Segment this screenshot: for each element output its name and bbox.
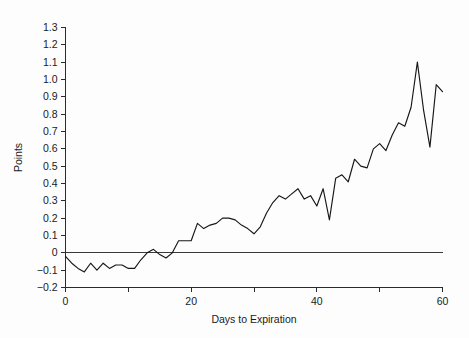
y-axis-tick-label: 0.6 — [43, 142, 58, 154]
y-axis-tick-label: 1.2 — [43, 38, 58, 50]
y-axis-tick-label: 0.2 — [43, 212, 58, 224]
y-axis-tick-label: 1.1 — [43, 56, 58, 68]
x-axis-tick-label: 40 — [311, 295, 323, 307]
y-axis-tick-label: −0.1 — [37, 264, 58, 276]
x-axis-tick-label: 0 — [63, 295, 69, 307]
y-axis-tick-label: 0.5 — [43, 160, 58, 172]
x-axis-title: Days to Expiration — [211, 313, 296, 325]
y-axis-tick-label: 0.7 — [43, 125, 58, 137]
y-axis-tick-label: 0.3 — [43, 194, 58, 206]
x-axis-tick-label: 20 — [185, 295, 197, 307]
x-axis-tick-label: 60 — [437, 295, 449, 307]
y-axis-tick-label: −0.2 — [37, 281, 58, 293]
line-chart: −0.2−0.100.10.20.30.40.50.60.70.80.91.01… — [0, 0, 469, 338]
y-axis-tick-label: 1.0 — [43, 73, 58, 85]
y-axis-tick-label: 0.1 — [43, 229, 58, 241]
y-axis-title: Points — [12, 143, 24, 172]
y-axis-tick-label: 0 — [52, 246, 58, 258]
y-axis-tick-label: 0.4 — [43, 177, 58, 189]
y-axis-tick-label: 0.9 — [43, 90, 58, 102]
y-axis-tick-label: 0.8 — [43, 108, 58, 120]
y-axis-tick-label: 1.3 — [43, 21, 58, 33]
chart-figure: −0.2−0.100.10.20.30.40.50.60.70.80.91.01… — [0, 0, 469, 338]
